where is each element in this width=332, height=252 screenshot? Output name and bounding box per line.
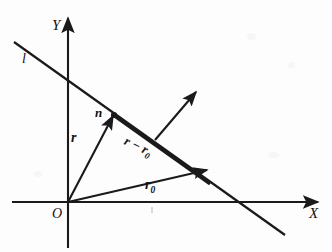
point-on-line-marker [111,112,117,118]
scan-artifact-tick [151,207,153,213]
vector-r0-label-subscript: 0 [150,185,155,195]
vector-r-label: r [71,131,76,145]
vector-r [68,116,113,202]
scan-speck [247,33,256,40]
diagram-canvas [0,0,332,252]
line-l-label: l [22,52,26,66]
y-axis-label: Y [52,18,60,33]
vector-line-diagram: Y X O l n r r0 r − r0 [0,0,332,252]
origin-label: O [52,207,62,221]
scan-speck [288,62,295,68]
vector-n-label: n [95,106,102,119]
scan-speck [34,171,42,177]
scan-speck [268,152,279,158]
x-axis-label: X [309,206,318,221]
vector-r0 [68,170,207,202]
vector-r0-label: r0 [145,178,155,195]
vector-n-normal [155,92,196,140]
